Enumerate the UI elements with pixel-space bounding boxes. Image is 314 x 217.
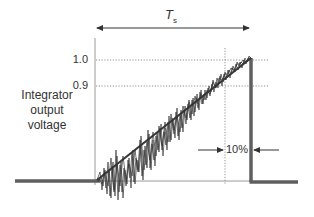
period-label-main: T [165,7,173,22]
y-axis-label-line-2: output [4,103,90,118]
ideal-ramp [97,58,251,180]
tolerance-label: 10% [226,143,248,155]
period-label: Ts [165,7,177,25]
y-axis-label: Integrator output voltage [4,88,90,133]
period-label-subscript: s [173,16,177,25]
y-axis-label-line-3: voltage [4,118,90,133]
y-tick-0.9: 0.9 [58,79,88,91]
y-tick-1.0: 1.0 [58,53,88,65]
